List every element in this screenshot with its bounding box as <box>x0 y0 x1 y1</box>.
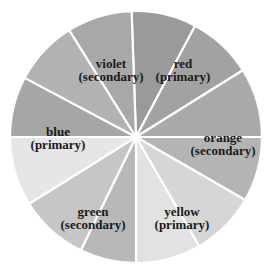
label-blue-type: (primary) <box>31 138 86 151</box>
label-violet: violet (secondary) <box>79 57 144 83</box>
label-red-type: (primary) <box>156 70 211 83</box>
label-yellow: yellow (primary) <box>155 205 210 231</box>
label-violet-type: (secondary) <box>79 70 144 83</box>
label-orange: orange (secondary) <box>191 131 256 157</box>
label-green-type: (secondary) <box>61 218 126 231</box>
label-blue: blue (primary) <box>31 125 86 151</box>
label-orange-type: (secondary) <box>191 144 256 157</box>
label-yellow-type: (primary) <box>155 218 210 231</box>
label-green: green (secondary) <box>61 205 126 231</box>
label-red: red (primary) <box>156 57 211 83</box>
